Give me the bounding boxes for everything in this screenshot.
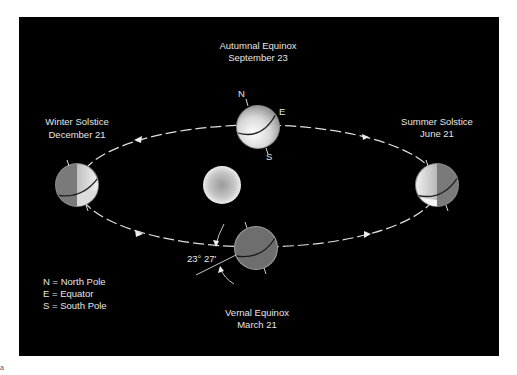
tilt-angle-label: 23° 27' [187, 253, 217, 264]
orbit-diagram: N E S Autumnal Equinox September 23 Wint… [0, 0, 517, 375]
legend: N = North Pole E = Equator S = South Pol… [43, 276, 107, 311]
winter-solstice-date: December 21 [48, 129, 105, 140]
autumnal-equinox-date: September 23 [228, 52, 288, 63]
equator-label: E [279, 106, 285, 117]
legend-item-north: N = North Pole [43, 276, 106, 287]
earth-vernal-equinox [234, 222, 278, 274]
sun [203, 166, 241, 204]
legend-item-equator: E = Equator [43, 288, 93, 299]
earth-winter-solstice [55, 160, 99, 211]
summer-solstice-name: Summer Solstice [401, 116, 473, 127]
autumnal-equinox-name: Autumnal Equinox [219, 40, 296, 51]
vernal-equinox-date: March 21 [237, 319, 277, 330]
arrow-right-bottom [364, 231, 371, 238]
arrow-right-top [362, 134, 369, 140]
earth-summer-solstice [415, 160, 459, 211]
legend-item-south: S = South Pole [43, 300, 107, 311]
earth-autumnal-equinox [236, 99, 280, 154]
south-pole-label: S [266, 151, 272, 162]
vernal-equinox-name: Vernal Equinox [225, 307, 289, 318]
north-pole-label: N [238, 88, 245, 99]
orbit-arrows [134, 134, 371, 238]
arrow-left-top [134, 136, 142, 143]
winter-solstice-name: Winter Solstice [45, 116, 108, 127]
summer-solstice-date: June 21 [420, 128, 454, 139]
figure-corner-mark: a [0, 364, 4, 371]
arrow-left-bottom [135, 230, 143, 237]
